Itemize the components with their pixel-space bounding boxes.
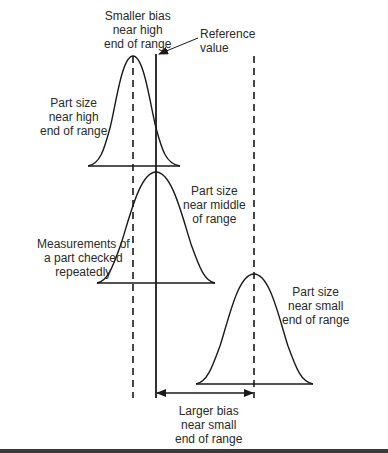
smaller-bias-label: Smaller bias near high end of range xyxy=(104,9,171,51)
bottom-rule xyxy=(0,449,388,453)
part-size-small-label: Part size near small end of range xyxy=(282,285,349,327)
part-size-middle-label: Part size near middle of range xyxy=(183,184,246,226)
part-size-high-label: Part size near high end of range xyxy=(40,96,107,138)
measurements-annotation-label: Measurements of a part checked repeatedl… xyxy=(37,237,130,279)
larger-bias-label: Larger bias near small end of range xyxy=(175,404,242,446)
diagram-canvas xyxy=(0,0,388,453)
reference-value-label: Reference value xyxy=(200,27,255,55)
bias-diagram: Smaller bias near high end of range Refe… xyxy=(0,0,388,453)
